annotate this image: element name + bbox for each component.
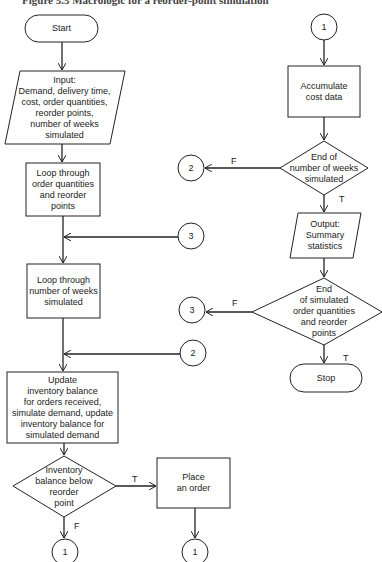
connector-2-from-weeks-label: 2	[178, 155, 204, 181]
update-label: Update inventory balance for orders rece…	[7, 372, 118, 443]
start-label: Start	[25, 15, 98, 42]
reorder-false-flag: F	[74, 521, 80, 531]
connector-3-to-loop-label: 3	[178, 223, 204, 249]
connector-1-top-label: 1	[311, 14, 337, 40]
orders-false-flag: F	[232, 298, 238, 308]
loop-weeks-label: Loop through number of weeks simulated	[27, 264, 100, 318]
weeks-true-flag: T	[339, 194, 345, 204]
connector-2-to-update-label: 2	[180, 340, 206, 366]
connector-1-false-label: 1	[52, 539, 78, 562]
accumulate-label: Accumulate cost data	[288, 66, 360, 117]
reorder-decision-label: Inventory balance below reorder point	[20, 456, 108, 517]
orders-decision-label: End of simulated order quantities and re…	[268, 278, 380, 345]
connector-3-from-orders-label: 3	[179, 297, 205, 323]
flowchart: Figure 5.5 Macrologic for a reorder-poin…	[0, 0, 382, 562]
orders-true-flag: T	[343, 353, 349, 363]
input-label: Input: Demand, delivery time, cost, orde…	[12, 72, 117, 144]
stop-label: Stop	[290, 364, 362, 392]
reorder-true-flag: T	[132, 474, 138, 484]
place-order-label: Place an order	[157, 458, 230, 508]
weeks-false-flag: F	[231, 156, 237, 166]
connector-1-place-label: 1	[182, 539, 208, 562]
output-label: Output: Summary statistics	[292, 213, 358, 258]
loop-orders-label: Loop through order quantities and reorde…	[26, 163, 100, 216]
weeks-decision-label: End of number of weeks simulated	[280, 141, 368, 195]
